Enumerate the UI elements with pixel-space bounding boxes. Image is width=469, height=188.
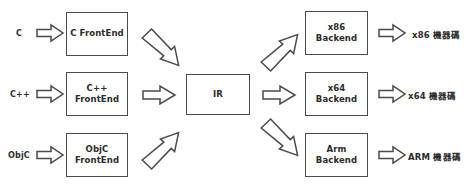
arrow-frontend-c-to-ir bbox=[140, 28, 188, 72]
output-label-x86: x86 機器碼 bbox=[412, 28, 461, 40]
arrow-backend-x64-to-output bbox=[378, 85, 406, 103]
arrow-frontend-objc-to-ir bbox=[140, 126, 188, 170]
node-x86-backend-label: x86 Backend bbox=[316, 22, 357, 45]
output-label-x64: x64 機器碼 bbox=[408, 89, 457, 101]
node-objc-frontend: ObjC FrontEnd bbox=[66, 133, 128, 177]
node-c-frontend-label: C FrontEnd bbox=[70, 28, 124, 39]
arrow-backend-arm-to-output bbox=[378, 146, 406, 164]
arrow-input-objc-to-frontend bbox=[36, 146, 64, 164]
node-cpp-frontend-label: C++ FrontEnd bbox=[75, 83, 119, 106]
arrow-ir-to-backend-x64 bbox=[262, 85, 296, 105]
node-objc-frontend-label: ObjC FrontEnd bbox=[75, 144, 119, 167]
node-arm-backend-label: Arm Backend bbox=[316, 144, 357, 167]
node-c-frontend: C FrontEnd bbox=[66, 12, 128, 56]
arrow-frontend-cpp-to-ir bbox=[142, 85, 176, 105]
output-label-arm: ARM 機器碼 bbox=[408, 150, 461, 162]
node-x86-backend: x86 Backend bbox=[305, 11, 368, 55]
arrow-input-c-to-frontend bbox=[36, 24, 64, 42]
arrow-ir-to-backend-arm bbox=[259, 118, 307, 166]
input-label-c: C bbox=[16, 29, 22, 38]
input-label-cpp: C++ bbox=[10, 90, 30, 99]
node-ir: IR bbox=[186, 74, 250, 115]
input-label-objc: ObjC bbox=[8, 151, 30, 160]
node-cpp-frontend: C++ FrontEnd bbox=[66, 72, 128, 116]
arrow-backend-x86-to-output bbox=[378, 24, 406, 42]
diagram-canvas: C C FrontEnd x86 Backend x86 機器碼 C++ C++… bbox=[0, 0, 469, 188]
node-ir-label: IR bbox=[213, 89, 223, 100]
node-arm-backend: Arm Backend bbox=[305, 133, 368, 177]
node-x64-backend-label: x64 Backend bbox=[316, 83, 357, 106]
arrow-ir-to-backend-x86 bbox=[259, 24, 307, 72]
arrow-input-cpp-to-frontend bbox=[36, 85, 64, 103]
node-x64-backend: x64 Backend bbox=[305, 72, 368, 116]
